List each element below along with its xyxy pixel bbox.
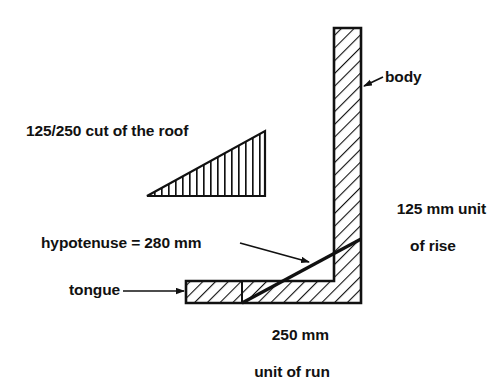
label-tongue: tongue xyxy=(69,281,120,299)
label-body: body xyxy=(385,68,422,86)
label-unit-of-run: 250 mm unit of run xyxy=(222,308,362,381)
roof-cut-triangle xyxy=(147,131,265,196)
body-leader-arrow xyxy=(364,77,383,86)
hypotenuse-leader-arrow xyxy=(240,243,309,262)
label-unit-of-run-line2: unit of run xyxy=(222,363,362,381)
label-unit-of-run-line1: 250 mm xyxy=(272,326,329,343)
label-hypotenuse: hypotenuse = 280 mm xyxy=(41,234,201,252)
label-unit-of-rise: 125 mm unit of rise xyxy=(367,182,499,292)
label-roof-cut: 125/250 cut of the roof xyxy=(26,122,188,140)
label-unit-of-rise-line1: 125 mm unit xyxy=(397,200,486,217)
label-unit-of-rise-line2: of rise xyxy=(367,237,499,255)
